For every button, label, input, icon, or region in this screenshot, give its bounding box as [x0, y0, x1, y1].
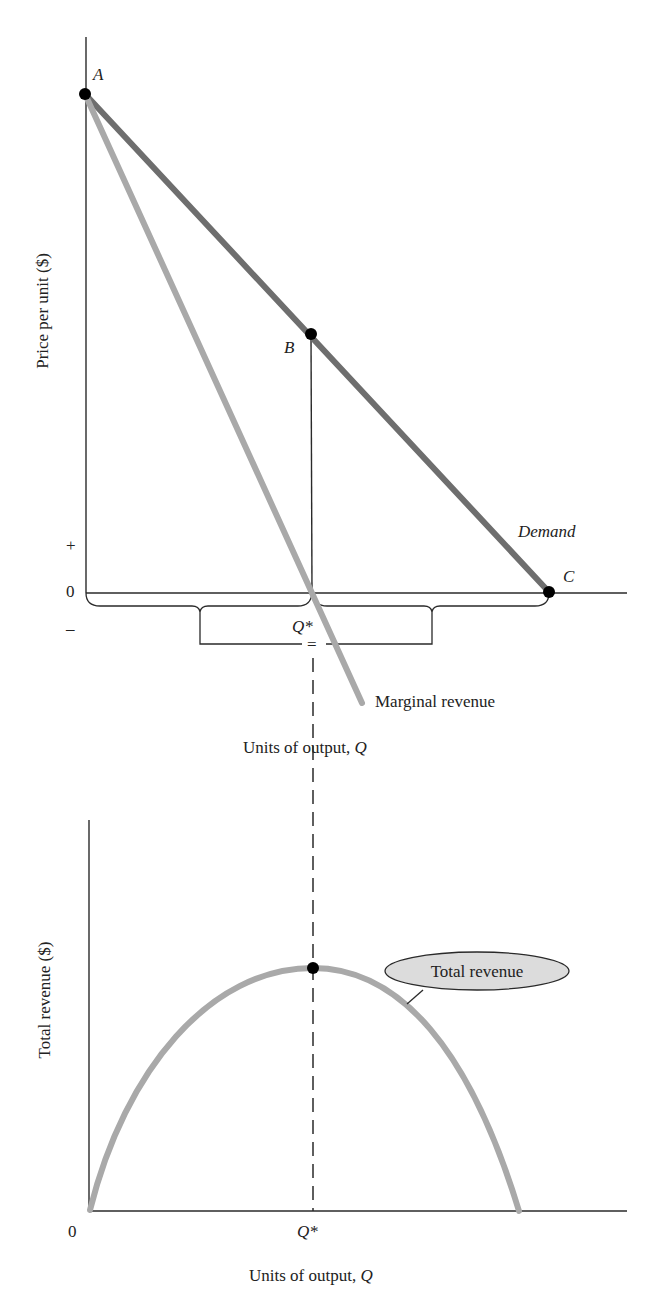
tick-minus: – [65, 619, 75, 638]
point-c-marker [543, 586, 555, 598]
marginal-revenue-curve [85, 94, 362, 703]
lower-qstar-label: Q* [297, 1222, 318, 1241]
lower-x-axis-label-var: Q [360, 1266, 372, 1285]
total-revenue-label: Total revenue [431, 962, 524, 981]
left-brace [86, 593, 312, 612]
revenue-diagram: A B C Demand + 0 – Q* = Marginal revenue… [0, 0, 662, 1306]
callout-leader [407, 990, 423, 1004]
tr-max-point [307, 962, 319, 974]
upper-x-axis-label: Units of output, Q [243, 738, 367, 757]
point-b-marker [305, 328, 317, 340]
lower-x-axis-label-text: Units of output, [249, 1266, 360, 1285]
equals-sign: = [307, 635, 317, 654]
demand-curve [85, 94, 549, 592]
marginal-revenue-label: Marginal revenue [375, 692, 495, 711]
upper-x-axis-label-var: Q [354, 738, 366, 757]
upper-panel: A B C Demand + 0 – Q* = Marginal revenue… [33, 37, 627, 757]
b-to-qstar-line [311, 334, 312, 593]
tick-zero: 0 [66, 582, 75, 601]
demand-label: Demand [517, 522, 576, 541]
point-a-label: A [92, 65, 104, 84]
upper-qstar-label: Q* [292, 617, 313, 636]
lower-panel: Total revenue 0 Q* Units of output, Q To… [35, 820, 627, 1285]
point-c-label: C [563, 567, 575, 586]
point-b-label: B [284, 338, 295, 357]
total-revenue-curve [90, 968, 519, 1211]
origin-label: 0 [68, 1222, 77, 1241]
tick-plus: + [66, 536, 76, 555]
upper-y-axis-label: Price per unit ($) [33, 253, 52, 369]
lower-y-axis-label: Total revenue ($) [35, 942, 54, 1059]
point-a-marker [79, 88, 91, 100]
upper-x-axis-label-text: Units of output, [243, 738, 354, 757]
right-brace [313, 593, 549, 612]
lower-x-axis-label: Units of output, Q [249, 1266, 373, 1285]
